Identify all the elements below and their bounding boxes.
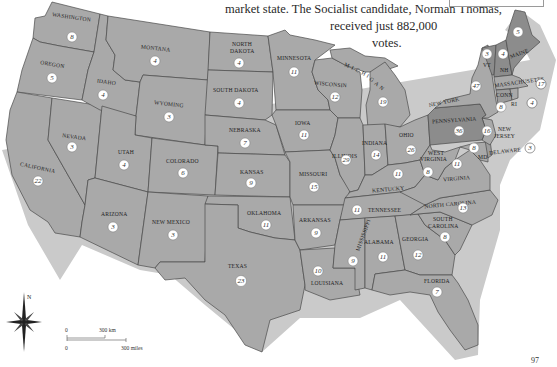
ev-colorado: 6 <box>178 168 188 178</box>
svg-text:6: 6 <box>181 169 185 177</box>
ev-maine: 5 <box>513 27 523 37</box>
ev-missouri: 15 <box>309 182 319 192</box>
svg-text:11: 11 <box>395 170 401 178</box>
label-west-virginia-2: VIRGINIA <box>420 156 447 162</box>
label-alabama: ALABAMA <box>364 239 394 245</box>
state-pennsylvania <box>428 104 486 145</box>
ev-kentucky: 11 <box>393 169 403 179</box>
label-georgia: GEORGIA <box>402 236 429 242</box>
state-south-dakota <box>205 70 273 120</box>
svg-text:11: 11 <box>291 68 297 76</box>
svg-text:10: 10 <box>315 267 323 275</box>
ev-texas: 23 <box>236 276 247 287</box>
svg-text:11: 11 <box>263 221 269 229</box>
ev-north-dakota: 4 <box>234 58 244 68</box>
ev-michigan: 19 <box>378 97 388 107</box>
svg-text:29: 29 <box>343 156 351 164</box>
svg-text:13: 13 <box>460 204 468 212</box>
ev-maryland: 8 <box>469 143 479 153</box>
label-new-jersey-1: NEW <box>498 126 512 132</box>
svg-text:11: 11 <box>301 131 307 139</box>
label-arkansas: ARKANSAS <box>299 217 331 223</box>
svg-text:4: 4 <box>122 161 126 169</box>
compass-north-label: N <box>27 294 32 300</box>
label-new-jersey-2: JERSEY <box>494 133 515 139</box>
ev-california: 22 <box>33 176 43 186</box>
svg-text:14: 14 <box>373 151 381 159</box>
svg-text:9: 9 <box>249 179 253 187</box>
ev-oregon: 5 <box>47 73 57 83</box>
ev-south-carolina: 8 <box>440 232 450 242</box>
label-new-hampshire: NH <box>500 67 508 73</box>
svg-text:3: 3 <box>527 144 532 152</box>
ev-new-jersey: 16 <box>482 126 492 136</box>
ev-utah: 4 <box>119 160 129 170</box>
svg-text:4: 4 <box>237 59 241 67</box>
svg-text:4: 4 <box>501 50 505 58</box>
ev-kansas: 9 <box>246 178 256 188</box>
ev-ohio: 26 <box>406 145 416 155</box>
label-maryland: MD <box>478 154 487 160</box>
label-north-dakota-2: DAKOTA <box>230 48 254 54</box>
ev-louisiana: 10 <box>313 266 323 276</box>
ev-vermont: 3 <box>482 49 492 59</box>
label-iowa: IOWA <box>295 120 310 126</box>
ev-oklahoma: 11 <box>261 220 271 230</box>
svg-text:4: 4 <box>237 99 241 107</box>
svg-text:11: 11 <box>454 160 460 168</box>
label-louisiana: LOUISIANA <box>311 280 343 286</box>
svg-text:47: 47 <box>473 82 481 90</box>
svg-text:4: 4 <box>530 99 534 107</box>
ev-delaware: 3 <box>525 143 535 153</box>
ev-idaho: 4 <box>98 90 108 100</box>
label-ohio: OHIO <box>399 132 414 138</box>
scale-km-label: 300 km <box>99 327 116 333</box>
svg-text:36: 36 <box>455 127 464 135</box>
svg-text:12: 12 <box>332 93 340 101</box>
compass-rose-icon: N <box>6 292 42 352</box>
scale-mi-label: 300 miles <box>121 345 143 351</box>
page-number: 97 <box>531 356 539 365</box>
ev-south-dakota: 4 <box>234 98 244 108</box>
ev-wyoming: 3 <box>164 112 174 122</box>
state-colorado <box>148 138 218 195</box>
svg-text:7: 7 <box>435 288 439 296</box>
label-south-carolina-1: SOUTH <box>433 216 453 222</box>
label-connecticut: CONN <box>496 92 513 98</box>
svg-text:15: 15 <box>311 183 319 191</box>
svg-text:3: 3 <box>170 231 175 239</box>
label-missouri: MISSOURI <box>299 171 327 177</box>
ev-iowa: 11 <box>299 130 309 140</box>
label-indiana: INDIANA <box>362 140 387 146</box>
svg-text:8: 8 <box>499 103 503 111</box>
label-north-dakota-1: NORTH <box>232 41 252 47</box>
label-new-mexico: NEW MEXICO <box>152 219 190 225</box>
ev-nebraska: 7 <box>240 138 250 148</box>
ev-west-virginia: 8 <box>423 167 433 177</box>
svg-text:8: 8 <box>426 168 430 176</box>
svg-text:5: 5 <box>516 28 520 36</box>
svg-text:11: 11 <box>380 253 386 261</box>
ev-new-mexico: 3 <box>168 230 178 240</box>
ev-washington: 8 <box>67 32 77 42</box>
svg-text:9: 9 <box>314 229 318 237</box>
scale-km-zero: 0 <box>65 327 68 333</box>
scale-bar: 0 300 km 0 300 miles <box>65 327 143 351</box>
svg-text:17: 17 <box>538 80 546 88</box>
svg-text:4: 4 <box>101 91 105 99</box>
svg-text:9: 9 <box>351 257 355 265</box>
label-minnesota: MINNESOTA <box>277 55 311 61</box>
ev-nevada: 3 <box>67 142 77 152</box>
svg-text:3: 3 <box>484 50 489 58</box>
label-oklahoma: OKLAHOMA <box>247 210 281 216</box>
ev-arkansas: 9 <box>311 228 321 238</box>
svg-text:3: 3 <box>166 113 171 121</box>
ev-wisconsin: 12 <box>330 92 340 102</box>
ev-new-hampshire: 4 <box>498 49 508 59</box>
svg-text:11: 11 <box>354 206 360 214</box>
ev-rhode-island: 4 <box>527 98 537 108</box>
ev-new-york: 47 <box>471 81 481 91</box>
state-arizona <box>80 178 148 265</box>
state-michigan-lower <box>366 62 410 128</box>
svg-text:8: 8 <box>70 33 74 41</box>
